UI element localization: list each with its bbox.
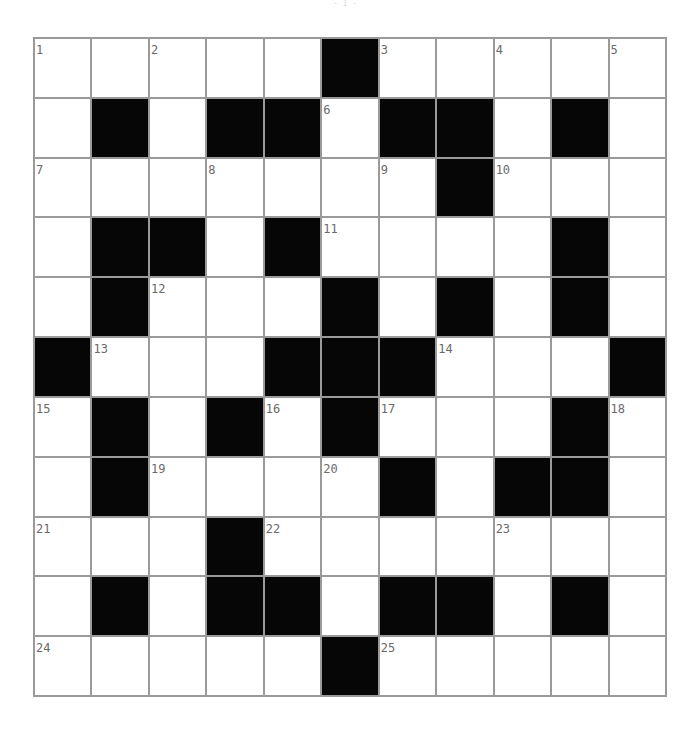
- answer-cell[interactable]: 12: [150, 278, 207, 338]
- answer-cell[interactable]: 8: [207, 159, 264, 219]
- answer-cell[interactable]: 25: [380, 637, 437, 697]
- answer-cell[interactable]: [437, 637, 494, 697]
- answer-cell[interactable]: [437, 398, 494, 458]
- answer-cell[interactable]: 2: [150, 39, 207, 99]
- block-cell: [265, 577, 322, 637]
- answer-cell[interactable]: [92, 518, 149, 578]
- answer-cell[interactable]: 21: [35, 518, 92, 578]
- block-cell: [437, 159, 494, 219]
- answer-cell[interactable]: 22: [265, 518, 322, 578]
- answer-cell[interactable]: 20: [322, 458, 379, 518]
- answer-cell[interactable]: [495, 338, 552, 398]
- answer-cell[interactable]: 14: [437, 338, 494, 398]
- clue-number: 12: [151, 283, 165, 295]
- answer-cell[interactable]: 9: [380, 159, 437, 219]
- answer-cell[interactable]: [265, 159, 322, 219]
- block-cell: [92, 577, 149, 637]
- answer-cell[interactable]: 15: [35, 398, 92, 458]
- answer-cell[interactable]: [552, 39, 609, 99]
- answer-cell[interactable]: [495, 218, 552, 278]
- answer-cell[interactable]: [437, 458, 494, 518]
- answer-cell[interactable]: [265, 637, 322, 697]
- answer-cell[interactable]: [610, 577, 667, 637]
- answer-cell[interactable]: [495, 577, 552, 637]
- answer-cell[interactable]: [265, 458, 322, 518]
- answer-cell[interactable]: 18: [610, 398, 667, 458]
- answer-cell[interactable]: [322, 518, 379, 578]
- answer-cell[interactable]: [552, 637, 609, 697]
- block-cell: [437, 278, 494, 338]
- answer-cell[interactable]: [92, 637, 149, 697]
- answer-cell[interactable]: [35, 278, 92, 338]
- answer-cell[interactable]: [610, 218, 667, 278]
- answer-cell[interactable]: 11: [322, 218, 379, 278]
- answer-cell[interactable]: [207, 218, 264, 278]
- answer-cell[interactable]: [207, 278, 264, 338]
- answer-cell[interactable]: [495, 99, 552, 159]
- answer-cell[interactable]: [610, 159, 667, 219]
- block-cell: [150, 218, 207, 278]
- answer-cell[interactable]: [495, 637, 552, 697]
- answer-cell[interactable]: [437, 218, 494, 278]
- answer-cell[interactable]: [265, 278, 322, 338]
- block-cell: [207, 398, 264, 458]
- answer-cell[interactable]: [92, 39, 149, 99]
- answer-cell[interactable]: [207, 338, 264, 398]
- answer-cell[interactable]: 19: [150, 458, 207, 518]
- answer-cell[interactable]: [322, 159, 379, 219]
- clue-number: 23: [496, 523, 510, 535]
- answer-cell[interactable]: [437, 39, 494, 99]
- answer-cell[interactable]: [610, 278, 667, 338]
- answer-cell[interactable]: [610, 99, 667, 159]
- answer-cell[interactable]: 1: [35, 39, 92, 99]
- answer-cell[interactable]: 5: [610, 39, 667, 99]
- block-cell: [265, 99, 322, 159]
- answer-cell[interactable]: [380, 278, 437, 338]
- answer-cell[interactable]: [380, 218, 437, 278]
- answer-cell[interactable]: [35, 458, 92, 518]
- answer-cell[interactable]: [552, 338, 609, 398]
- answer-cell[interactable]: [610, 458, 667, 518]
- answer-cell[interactable]: [322, 577, 379, 637]
- answer-cell[interactable]: [150, 159, 207, 219]
- answer-cell[interactable]: [265, 39, 322, 99]
- answer-cell[interactable]: 3: [380, 39, 437, 99]
- answer-cell[interactable]: 17: [380, 398, 437, 458]
- answer-cell[interactable]: [150, 577, 207, 637]
- answer-cell[interactable]: 4: [495, 39, 552, 99]
- answer-cell[interactable]: [207, 39, 264, 99]
- answer-cell[interactable]: [150, 518, 207, 578]
- answer-cell[interactable]: [207, 458, 264, 518]
- answer-cell[interactable]: 10: [495, 159, 552, 219]
- block-cell: [207, 577, 264, 637]
- answer-cell[interactable]: [552, 518, 609, 578]
- clue-number: 10: [496, 164, 510, 176]
- answer-cell[interactable]: 24: [35, 637, 92, 697]
- clue-number: 16: [266, 403, 280, 415]
- answer-cell[interactable]: 16: [265, 398, 322, 458]
- crossword-grid: 1234567891011121314151617181920212223242…: [33, 37, 667, 697]
- answer-cell[interactable]: 13: [92, 338, 149, 398]
- answer-cell[interactable]: [150, 99, 207, 159]
- answer-cell[interactable]: [150, 398, 207, 458]
- answer-cell[interactable]: [150, 637, 207, 697]
- answer-cell[interactable]: [495, 278, 552, 338]
- answer-cell[interactable]: [92, 159, 149, 219]
- clue-number: 22: [266, 523, 280, 535]
- block-cell: [207, 99, 264, 159]
- answer-cell[interactable]: 6: [322, 99, 379, 159]
- answer-cell[interactable]: [35, 99, 92, 159]
- answer-cell[interactable]: [207, 637, 264, 697]
- answer-cell[interactable]: [150, 338, 207, 398]
- answer-cell[interactable]: [35, 218, 92, 278]
- answer-cell[interactable]: [437, 518, 494, 578]
- answer-cell[interactable]: [495, 398, 552, 458]
- answer-cell[interactable]: 23: [495, 518, 552, 578]
- answer-cell[interactable]: 7: [35, 159, 92, 219]
- answer-cell[interactable]: [35, 577, 92, 637]
- clue-number: 6: [323, 104, 330, 116]
- answer-cell[interactable]: [610, 518, 667, 578]
- answer-cell[interactable]: [552, 159, 609, 219]
- answer-cell[interactable]: [380, 518, 437, 578]
- answer-cell[interactable]: [610, 637, 667, 697]
